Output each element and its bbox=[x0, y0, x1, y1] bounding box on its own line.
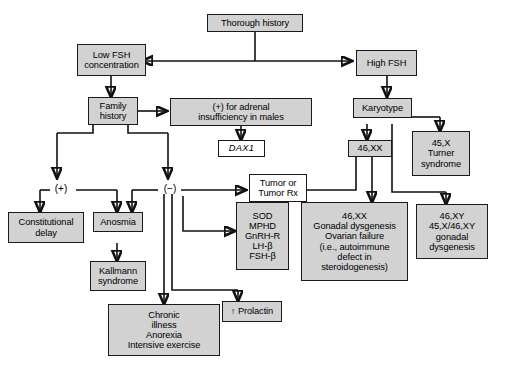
box-anosmia[interactable]: Anosmia bbox=[93, 212, 143, 232]
node-negative-sign: (−) bbox=[159, 183, 181, 194]
box-gene-panel[interactable]: SOD MPHD GnRH-R LH-β FSH-β bbox=[236, 202, 289, 270]
box-constitutional-delay[interactable]: Constitutional delay bbox=[8, 212, 84, 243]
box-dax1[interactable]: DAX1 bbox=[218, 140, 265, 157]
box-prolactin[interactable]: ↑ Prolactin bbox=[222, 301, 282, 322]
box-chronic-illness[interactable]: Chronic illness Anorexia Intensive exerc… bbox=[108, 304, 220, 356]
box-low-fsh-concentration[interactable]: Low FSH concentration bbox=[77, 44, 146, 76]
node-positive-sign: (+) bbox=[50, 183, 72, 194]
box-gonadal-dysgenesis-46xx[interactable]: 46,XX Gonadal dysgenesis Ovarian failure… bbox=[301, 202, 408, 281]
box-thorough-history[interactable]: Thorough history bbox=[207, 14, 303, 32]
box-tumor-or-tumor-rx[interactable]: Tumor or Tumor Rx bbox=[249, 174, 307, 202]
box-adrenal-insufficiency[interactable]: (+) for adrenal insufficiency in males bbox=[170, 98, 312, 126]
box-karyotype[interactable]: Karyotype bbox=[353, 98, 412, 118]
box-gonadal-dysgenesis-46xy[interactable]: 46,XY 45,X/46,XY gonadal dysgenesis bbox=[416, 204, 488, 259]
box-turner-syndrome[interactable]: 45,X Turner syndrome bbox=[412, 131, 470, 176]
box-46-xx[interactable]: 46,XX bbox=[348, 140, 392, 157]
box-family-history[interactable]: Family history bbox=[88, 97, 138, 125]
box-high-fsh[interactable]: High FSH bbox=[356, 50, 417, 76]
box-kallmann-syndrome[interactable]: Kallmann syndrome bbox=[90, 261, 146, 291]
flowchart-canvas: Thorough history Low FSH concentration H… bbox=[0, 0, 507, 365]
